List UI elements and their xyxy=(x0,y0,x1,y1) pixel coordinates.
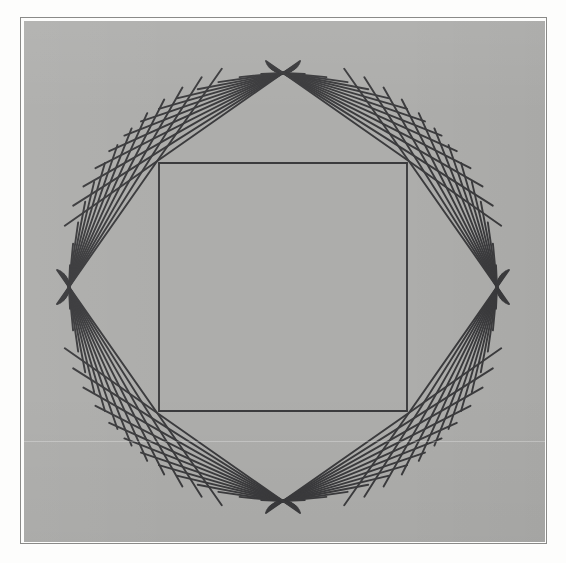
fan-line-segment xyxy=(59,271,202,497)
fan-line-segment xyxy=(57,69,222,304)
fan-line-segment xyxy=(267,368,493,511)
fan-line-segment xyxy=(73,63,299,206)
fan-line-segment xyxy=(59,77,202,303)
fan-line-segment xyxy=(57,270,222,505)
fan-line-segment xyxy=(344,69,509,304)
fan-line-segment xyxy=(266,61,501,226)
fan-line-segment xyxy=(65,348,300,513)
inscribed-square xyxy=(159,163,407,411)
fan-line-segment xyxy=(364,271,507,497)
fan-line-segment xyxy=(266,348,501,513)
string-art-figure xyxy=(24,21,545,542)
fan-line-segment xyxy=(344,270,509,505)
fan-line-segment xyxy=(65,61,300,226)
fan-line-segment xyxy=(364,77,507,303)
fan-line-segment xyxy=(267,63,493,206)
screenshot-canvas: Four-fan envelope (string-art) construct… xyxy=(0,0,566,563)
fan-line-segment xyxy=(73,368,299,511)
